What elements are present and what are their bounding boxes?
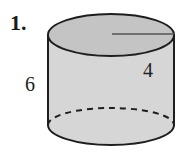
top-face: [48, 14, 174, 56]
cylinder-figure: 4 6: [0, 0, 180, 154]
radius-label: 4: [143, 59, 153, 81]
height-label: 6: [25, 73, 35, 95]
